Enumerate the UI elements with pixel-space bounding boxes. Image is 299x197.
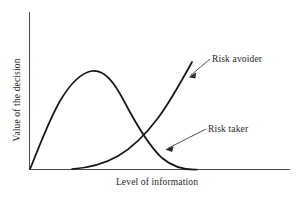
chart-background	[0, 0, 299, 197]
x-axis-label: Level of information	[116, 177, 198, 187]
chart-figure: Risk avoider Risk taker Level of informa…	[0, 0, 299, 197]
chart-canvas: Risk avoider Risk taker Level of informa…	[0, 0, 299, 197]
series-label-risk-avoider: Risk avoider	[212, 54, 263, 64]
y-axis-label: Value of the decision	[12, 58, 22, 141]
series-label-risk-taker: Risk taker	[208, 124, 249, 134]
